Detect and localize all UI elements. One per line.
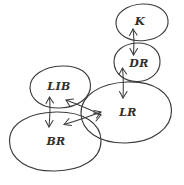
node-lib[interactable]: LIB [30, 66, 91, 108]
node-lr-label: LR [118, 106, 137, 119]
diagram-svg: K DR LIB LR BR [0, 0, 184, 185]
diagram-canvas: K DR LIB LR BR [0, 0, 184, 185]
node-dr-label: DR [128, 57, 148, 70]
node-k-label: K [134, 14, 146, 28]
node-br-label: BR [45, 135, 65, 148]
edge-br-lr-arrowhead-br [64, 119, 72, 126]
edge-k-dr-line [133, 29, 134, 55]
node-k[interactable]: K [116, 4, 168, 41]
node-lib-label: LIB [46, 80, 70, 93]
edge-dr-lr-line [123, 68, 124, 98]
node-lr[interactable]: LR [81, 82, 172, 143]
node-br[interactable]: BR [9, 112, 101, 171]
edge-k-dr[interactable] [130, 29, 138, 55]
